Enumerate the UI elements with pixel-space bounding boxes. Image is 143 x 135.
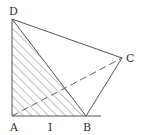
segment-bc: [86, 58, 122, 116]
label-c: C: [126, 52, 134, 65]
label-a: A: [9, 121, 19, 134]
geometry-figure: D C A I B: [0, 0, 143, 135]
label-i: I: [48, 121, 52, 134]
label-d: D: [9, 5, 18, 18]
label-b: B: [83, 121, 91, 134]
